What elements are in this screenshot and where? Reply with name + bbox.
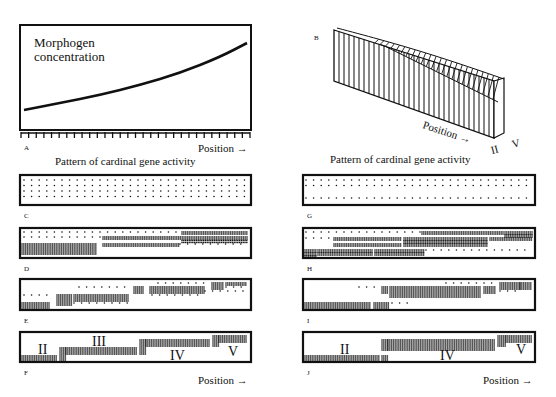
panel-f: FIIIIIIVV — [20, 332, 251, 377]
panel-letter-f: F — [24, 369, 28, 377]
panel-frame — [303, 175, 535, 205]
morphogen-gradient-figure: Morphogen concentration A Position → B P… — [0, 0, 556, 397]
panel-letter-e: E — [24, 317, 28, 325]
panel-i: I — [303, 279, 535, 325]
region-label-v: V — [516, 342, 526, 357]
panel-c: C — [20, 175, 251, 220]
position-label-left: Position → — [198, 374, 248, 386]
panel-a-position-label: Position → — [198, 142, 248, 154]
panel-frame — [20, 279, 251, 310]
panel-b-3d-gradient: B Position → II V — [314, 28, 521, 156]
panel-letter-d: D — [24, 265, 29, 273]
panel-letter-c: C — [24, 212, 29, 220]
region-label-ii: II — [340, 342, 350, 357]
panel-letter-h: H — [307, 265, 312, 273]
caption-right: Pattern of cardinal gene activity — [330, 153, 471, 165]
gradient-ribbon — [334, 28, 504, 138]
ylabel-line1: Morphogen — [34, 35, 95, 50]
region-label-ii: II — [38, 342, 48, 357]
position-label-right: Position → — [483, 374, 533, 386]
panel-letter-i: I — [307, 317, 310, 325]
panel-letter-j: J — [307, 369, 310, 377]
panel-d: D — [20, 228, 251, 273]
panel-g: G — [303, 175, 535, 220]
region-label-iv: IV — [170, 348, 185, 363]
region-label-v: V — [228, 344, 238, 359]
panel-j: JIIIVV — [303, 332, 535, 377]
panel-a-concentration-graph: Morphogen concentration A Position → — [20, 25, 251, 154]
panel-letter-b: B — [314, 34, 319, 42]
panel-b-label-ii: II — [489, 142, 500, 156]
panel-letter-a: A — [24, 144, 29, 152]
caption-left: Pattern of cardinal gene activity — [55, 155, 196, 167]
panel-b-label-v: V — [510, 136, 521, 150]
region-label-iii: III — [92, 334, 106, 349]
gene-activity-panels: CDEFIIIIIIVVGHIJIIIVV — [20, 175, 535, 377]
region-label-iv: IV — [440, 348, 455, 363]
panel-h: H — [303, 228, 535, 273]
position-ticks — [21, 132, 250, 138]
ylabel-line2: concentration — [34, 49, 105, 64]
panel-e: E — [20, 279, 251, 325]
panel-letter-g: G — [307, 212, 312, 220]
